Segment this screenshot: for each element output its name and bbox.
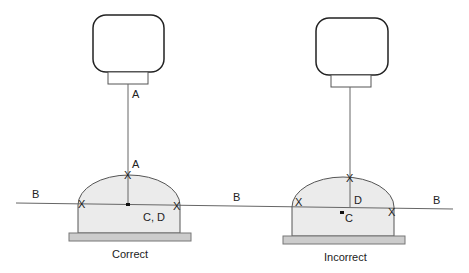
camera-mount-icon (331, 75, 371, 87)
camera-body-icon (316, 18, 388, 75)
label-center-c: C (345, 212, 353, 224)
center-marker (126, 203, 130, 206)
label-camera-axis: A (132, 88, 140, 100)
label-apex-d: D (354, 194, 362, 206)
x-marker-apex: X (346, 172, 354, 184)
camera-mount-icon (108, 72, 148, 84)
panel-incorrect: X X X D C Incorrect (283, 18, 405, 263)
panel-correct: X X X A A C, D Correct (69, 15, 191, 260)
dome-shape (292, 177, 394, 236)
x-marker-right: X (173, 200, 181, 212)
camera-body-icon (93, 15, 164, 72)
label-center: C, D (143, 211, 165, 223)
label-b-middle: B (233, 191, 240, 203)
x-marker-apex: X (124, 169, 132, 181)
base-plate (283, 236, 405, 244)
label-apex: A (132, 158, 140, 170)
x-marker-left: X (78, 198, 86, 210)
base-plate (69, 233, 191, 241)
caption-incorrect: Incorrect (324, 251, 367, 263)
x-marker-left: X (295, 196, 303, 208)
caption-correct: Correct (112, 248, 148, 260)
label-b-right: B (433, 194, 440, 206)
center-marker (340, 211, 344, 214)
alignment-diagram: X X X A A C, D Correct X X X D C In (0, 0, 469, 273)
label-b-left: B (32, 188, 39, 200)
x-marker-right: X (388, 206, 396, 218)
